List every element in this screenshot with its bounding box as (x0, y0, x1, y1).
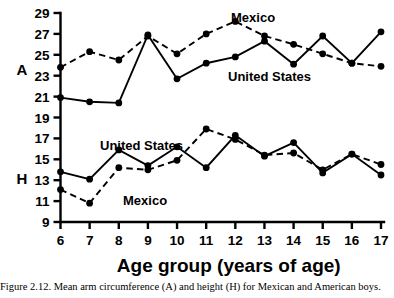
data-point-a-united-states (145, 32, 152, 39)
series-line-a-united-states (61, 32, 382, 103)
data-point-a-mexico (319, 50, 326, 57)
data-point-a-mexico (290, 41, 297, 48)
data-point-a-united-states (174, 75, 181, 82)
data-point-a-united-states (378, 28, 385, 35)
y-axis-tick-label: 21 (34, 90, 50, 105)
x-axis-tick-label: 13 (257, 233, 273, 248)
y-axis-tick-label: 27 (34, 27, 49, 42)
row-label-a: A (17, 61, 28, 78)
data-point-a-united-states (319, 33, 326, 40)
data-point-a-united-states (232, 54, 239, 61)
y-axis-tick-label: 15 (34, 152, 50, 167)
x-axis-tick-label: 11 (199, 233, 214, 248)
series-annotation-h-mexico: Mexico (123, 193, 167, 208)
x-axis-tick-label: 14 (286, 233, 302, 248)
row-label-h: H (17, 170, 28, 187)
data-point-h-united-states (86, 176, 93, 183)
data-point-h-mexico (232, 136, 239, 143)
data-point-a-united-states (86, 98, 93, 105)
series-annotation-h-united-states: United States (100, 138, 183, 153)
data-point-h-united-states (290, 139, 297, 146)
data-point-h-mexico (261, 152, 268, 159)
data-point-h-mexico (174, 157, 181, 164)
x-axis-tick-label: 7 (86, 233, 94, 248)
y-axis-tick-label: 17 (34, 131, 49, 146)
y-axis-tick-label: 9 (42, 215, 50, 230)
y-axis-tick-label: 13 (34, 173, 50, 188)
data-point-a-mexico (203, 31, 210, 38)
data-point-a-mexico (57, 64, 64, 71)
data-point-h-united-states (57, 168, 64, 175)
data-point-a-united-states (349, 60, 356, 67)
x-axis-tick-label: 6 (57, 233, 65, 248)
x-axis-title: Age group (years of age) (117, 255, 341, 276)
chart-axes (61, 13, 385, 222)
data-point-a-united-states (57, 94, 64, 101)
data-point-a-mexico (378, 63, 385, 70)
data-point-h-mexico (319, 166, 326, 173)
data-point-a-mexico (86, 48, 93, 55)
data-point-h-mexico (378, 161, 385, 168)
y-axis-tick-label: 11 (35, 194, 50, 209)
figure-chart: 9111315171921232527296789101112131415161… (0, 0, 394, 298)
data-point-h-mexico (57, 186, 64, 193)
x-axis-tick-label: 9 (144, 233, 152, 248)
series-annotation-a-united-states: United States (228, 69, 311, 84)
x-axis-tick-label: 17 (373, 233, 388, 248)
data-point-h-mexico (145, 166, 152, 173)
data-point-h-mexico (349, 151, 356, 158)
figure-caption-region: Figure 2.12. Mean arm circumference (A) … (0, 281, 394, 298)
data-point-a-mexico (174, 50, 181, 57)
data-point-h-united-states (203, 164, 210, 171)
data-point-a-united-states (115, 100, 122, 107)
y-axis-tick-label: 23 (34, 69, 50, 84)
data-point-a-united-states (290, 61, 297, 68)
data-point-h-mexico (290, 150, 297, 157)
data-point-h-mexico (115, 164, 122, 171)
x-axis-tick-label: 16 (344, 233, 360, 248)
y-axis-tick-label: 19 (34, 111, 49, 126)
x-axis-tick-label: 10 (170, 233, 185, 248)
y-axis-tick-label: 29 (34, 6, 49, 21)
series-annotation-a-mexico: Mexico (231, 10, 275, 25)
y-axis-tick-label: 25 (34, 48, 50, 63)
data-point-a-mexico (115, 57, 122, 64)
x-axis-tick-label: 15 (315, 233, 331, 248)
data-point-h-united-states (378, 172, 385, 179)
figure-caption: Figure 2.12. Mean arm circumference (A) … (0, 281, 394, 292)
x-axis-tick-label: 8 (115, 233, 123, 248)
line-chart-canvas: 9111315171921232527296789101112131415161… (0, 0, 394, 298)
data-point-a-united-states (203, 60, 210, 67)
data-point-a-united-states (261, 38, 268, 45)
x-axis-tick-label: 12 (228, 233, 243, 248)
data-point-h-mexico (86, 200, 93, 207)
data-point-h-mexico (203, 126, 210, 133)
